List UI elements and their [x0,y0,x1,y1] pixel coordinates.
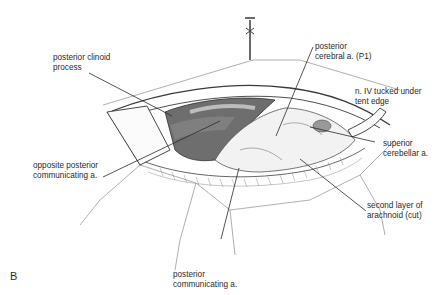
nerve-iv [348,108,386,137]
anatomy-drawing [0,0,439,295]
label-posterior-communicating: posterior communicating a. [173,270,237,290]
label-opposite-posterior-communicating: opposite posterior communicating a. [33,161,98,181]
label-second-layer-arachnoid: second layer of arachnoid (cut) [367,201,423,221]
label-posterior-clinoid-process: posterior clinoid process [53,53,110,73]
retractor-pin [245,18,255,60]
panel-letter: B [10,270,17,282]
label-posterior-cerebral-artery: posterior cerebral a. (P1) [315,42,371,62]
label-n-iv: n. IV tucked under tent edge [355,87,421,107]
label-superior-cerebellar-artery: superior cerebellar a. [383,139,428,159]
surgical-illustration: posterior clinoid process posterior cere… [0,0,439,295]
